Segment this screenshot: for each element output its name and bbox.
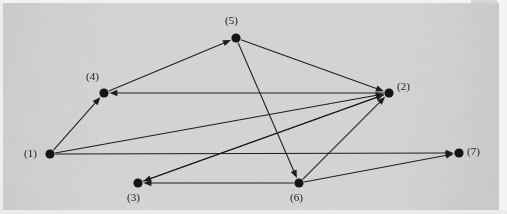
node-label-7: (7) bbox=[467, 145, 480, 157]
graph-edge bbox=[241, 40, 380, 90]
graph-node-4[interactable] bbox=[99, 88, 108, 97]
node-label-3: (3) bbox=[127, 191, 140, 203]
node-label-4: (4) bbox=[86, 70, 99, 82]
nodes-layer bbox=[45, 33, 463, 187]
graph-node-3[interactable] bbox=[133, 178, 142, 187]
graph-node-6[interactable] bbox=[294, 178, 303, 187]
figure-canvas: (1)(2)(3)(4)(5)(6)(7) bbox=[0, 0, 507, 214]
edge-arrowhead bbox=[291, 169, 297, 178]
graph-edge bbox=[109, 42, 227, 91]
edge-arrowhead bbox=[375, 85, 384, 91]
graph-node-7[interactable] bbox=[454, 148, 463, 157]
directed-graph-svg bbox=[0, 0, 507, 214]
graph-edge bbox=[238, 43, 295, 174]
node-label-5: (5) bbox=[225, 14, 238, 26]
node-label-1: (1) bbox=[24, 147, 37, 159]
graph-edge bbox=[55, 95, 379, 153]
graph-node-5[interactable] bbox=[231, 33, 240, 42]
graph-node-1[interactable] bbox=[45, 149, 54, 158]
node-label-6: (6) bbox=[290, 191, 303, 203]
page-margin-right bbox=[499, 0, 507, 214]
graph-edge bbox=[143, 96, 380, 181]
graph-node-2[interactable] bbox=[384, 88, 393, 97]
edge-arrowhead bbox=[222, 40, 231, 46]
page-corner-mark bbox=[471, 0, 497, 6]
node-label-2: (2) bbox=[397, 80, 410, 92]
graph-edge bbox=[304, 155, 449, 182]
graph-edge bbox=[53, 100, 97, 150]
page-margin-left bbox=[0, 0, 3, 214]
graph-edge bbox=[55, 153, 449, 154]
graph-edge bbox=[303, 100, 382, 179]
page-margin-bottom bbox=[0, 210, 507, 214]
edges-layer bbox=[53, 40, 453, 186]
page-margin-top bbox=[0, 0, 507, 3]
